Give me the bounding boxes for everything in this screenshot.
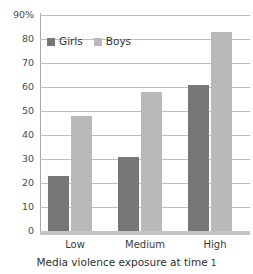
y-axis-tick-label: 40 (0, 130, 34, 140)
y-axis-tick-label: 70 (0, 58, 34, 68)
bars-layer (40, 15, 250, 231)
legend-swatch-icon (94, 38, 102, 46)
legend-entry-girls: Girls (47, 36, 83, 47)
bar-girls-low (48, 176, 69, 231)
legend-label: Boys (106, 36, 131, 47)
y-axis-tick-label: 20 (0, 178, 34, 188)
legend-label: Girls (59, 36, 83, 47)
y-axis-tick-label: 90% (0, 10, 34, 20)
bar-group (40, 15, 110, 231)
y-axis-tick-label: 50 (0, 106, 34, 116)
legend-swatch-icon (47, 38, 55, 46)
x-axis-title-numeral: 1 (211, 258, 216, 268)
legend-entry-boys: Boys (94, 36, 131, 47)
bar-boys-high (211, 32, 232, 231)
y-axis-tick-label: 30 (0, 154, 34, 164)
bar-chart-figure: 90%80706050403020100 GirlsBoys LowMedium… (0, 0, 253, 274)
y-axis-tick-label: 10 (0, 202, 34, 212)
bar-girls-medium (118, 157, 139, 231)
y-axis-tick-label: 60 (0, 82, 34, 92)
y-axis-tick-label: 80 (0, 34, 34, 44)
chart-legend: GirlsBoys (47, 36, 131, 47)
x-axis-baseline (40, 231, 250, 235)
x-axis-title-text: Media violence exposure at time (37, 256, 208, 268)
bar-girls-high (188, 85, 209, 231)
bar-group (180, 15, 250, 231)
x-axis-category-label: High (180, 239, 250, 251)
y-axis-tick-label: 0 (0, 226, 34, 236)
bar-group (110, 15, 180, 231)
x-axis-category-labels: LowMediumHigh (40, 239, 250, 253)
bar-boys-low (71, 116, 92, 231)
x-axis-title: Media violence exposure at time 1 (0, 256, 253, 270)
x-axis-category-label: Medium (110, 239, 180, 251)
bar-boys-medium (141, 92, 162, 231)
x-axis-category-label: Low (40, 239, 110, 251)
